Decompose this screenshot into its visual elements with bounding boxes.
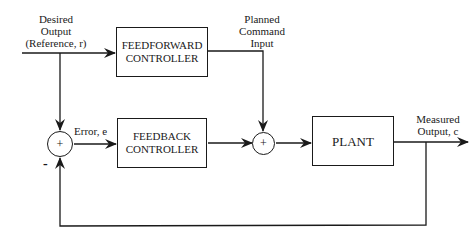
reference-label-line2: Output (41, 25, 72, 37)
planned-command-arrow (208, 51, 263, 131)
reference-label-line3: (Reference, r) (25, 37, 86, 49)
feedback-line2: CONTROLLER (126, 143, 199, 156)
plant-block: PLANT (312, 116, 394, 166)
planned-command-line1: Planned (244, 13, 279, 25)
reference-label: Desired Output (Reference, r) (6, 13, 106, 49)
feedforward-controller-block: FEEDFORWARD CONTROLLER (116, 27, 208, 77)
plant-label: PLANT (332, 135, 374, 148)
planned-command-line3: Input (250, 37, 273, 49)
planned-command-label: Planned Command Input (222, 13, 302, 49)
feedback-line1: FEEDBACK (126, 130, 199, 143)
error-label: Error, e (74, 125, 107, 137)
error-summing-junction: + (47, 131, 73, 157)
feedforward-line1: FEEDFORWARD (122, 39, 203, 52)
command-sum-plus: + (260, 136, 267, 151)
measured-output-line2: Output, c (418, 125, 459, 137)
planned-command-line2: Command (239, 25, 285, 37)
feedforward-line2: CONTROLLER (122, 52, 203, 65)
measured-output-label: Measured Output, c (403, 113, 473, 137)
error-sum-plus: + (57, 137, 64, 152)
minus-sign: - (43, 158, 48, 170)
measured-output-line1: Measured (416, 113, 459, 125)
feedback-controller-block: FEEDBACK CONTROLLER (117, 118, 207, 168)
command-summing-junction: + (252, 132, 275, 155)
reference-label-line1: Desired (39, 13, 73, 25)
